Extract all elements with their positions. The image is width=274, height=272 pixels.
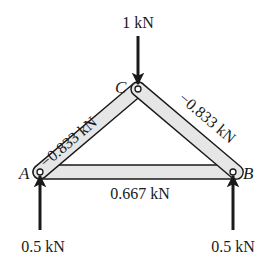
member-force-ab: 0.667 kN bbox=[110, 185, 170, 202]
load-label-c: 1 kN bbox=[122, 14, 154, 31]
reaction-label-a: 0.5 kN bbox=[21, 238, 65, 255]
pin-c bbox=[135, 86, 141, 92]
pin-a bbox=[37, 169, 43, 175]
member-ab bbox=[33, 165, 240, 179]
truss-diagram: A B C 1 kN −0.833 kN −0.833 kN 0.667 kN … bbox=[0, 0, 274, 272]
node-label-a: A bbox=[18, 164, 30, 183]
pin-b bbox=[230, 169, 236, 175]
node-label-c: C bbox=[115, 78, 127, 97]
reaction-label-b: 0.5 kN bbox=[211, 238, 255, 255]
node-label-b: B bbox=[243, 164, 254, 183]
member-force-ac: −0.833 kN bbox=[37, 113, 101, 171]
